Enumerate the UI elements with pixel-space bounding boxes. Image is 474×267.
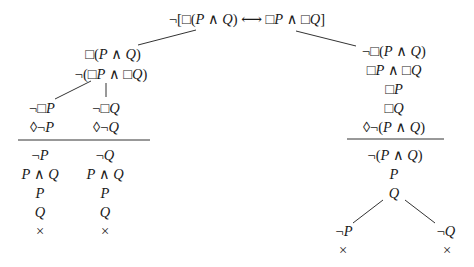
left-formula-1: □(P ∧ Q) <box>85 46 141 62</box>
right-above-3: □P <box>385 81 403 97</box>
ll-above-1: ¬□P <box>29 100 55 116</box>
right-above-5: ◊¬(P ∧ Q) <box>363 119 425 135</box>
lr-below-1: ¬Q <box>96 147 115 163</box>
ll-below-3: P <box>36 185 45 201</box>
lr-above-2: ◊¬Q <box>93 119 119 135</box>
right-below-1: ¬(P ∧ Q) <box>367 147 422 163</box>
ll-closed-mark: × <box>36 223 44 239</box>
edge-root-right <box>296 31 356 46</box>
rr-formula: ¬Q <box>437 223 456 239</box>
right-above-2: □P ∧ □Q <box>367 62 422 78</box>
right-below-3: Q <box>389 185 399 201</box>
lr-below-4: Q <box>100 204 110 220</box>
right-above-4: □Q <box>384 100 403 116</box>
edge-right-split-right <box>405 200 435 223</box>
edge-right-split-left <box>353 200 383 223</box>
lr-closed-mark: × <box>101 223 109 239</box>
ll-below-4: Q <box>35 204 45 220</box>
rl-formula: ¬P <box>335 223 352 239</box>
root-formula: ¬[□(P ∧ Q) ⟷ □P ∧ □Q] <box>169 11 325 27</box>
rl-closed-mark: × <box>339 242 347 258</box>
rr-closed-mark: × <box>443 242 451 258</box>
edge-left-split-left <box>55 81 91 99</box>
right-below-2: P <box>390 166 399 182</box>
left-formula-2: ¬(□P ∧ □Q) <box>75 66 148 82</box>
edge-root-left <box>138 30 196 45</box>
lr-below-3: P <box>101 185 110 201</box>
lr-above-1: ¬□Q <box>92 100 119 116</box>
ll-above-2: ◊¬P <box>30 119 54 135</box>
ll-below-1: ¬P <box>31 147 48 163</box>
right-above-1: ¬□(P ∧ Q) <box>362 43 426 59</box>
ll-below-2: P ∧ Q <box>21 166 58 182</box>
lr-below-2: P ∧ Q <box>86 166 123 182</box>
